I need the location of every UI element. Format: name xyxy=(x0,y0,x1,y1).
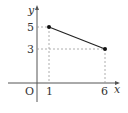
point-1-5 xyxy=(47,25,51,29)
y-axis-arrow-icon xyxy=(35,5,39,10)
y-axis-label: y xyxy=(27,4,35,17)
x-axis-label: x xyxy=(114,83,121,96)
y-tick-3: 3 xyxy=(27,43,34,56)
point-6-3 xyxy=(103,47,107,51)
coordinate-plot: y 5 3 O 1 6 x xyxy=(0,0,128,113)
x-tick-1: 1 xyxy=(46,85,53,98)
origin-label: O xyxy=(25,85,34,98)
data-segment xyxy=(49,27,105,49)
x-tick-6: 6 xyxy=(101,85,108,98)
y-tick-5: 5 xyxy=(27,21,34,34)
